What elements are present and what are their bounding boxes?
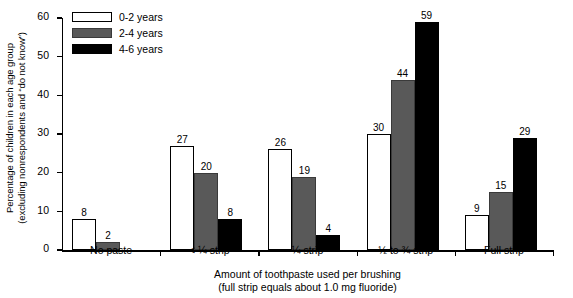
x-axis-category-label: ½ to ¾ strip xyxy=(357,244,455,257)
y-axis-tick: 60 xyxy=(57,17,62,18)
bar-value-label: 20 xyxy=(201,161,212,173)
bar: 29 xyxy=(513,138,537,250)
bar-value-label: 59 xyxy=(421,10,432,22)
bar-value-label: 15 xyxy=(495,180,506,192)
y-axis-tick-label: 40 xyxy=(27,88,49,101)
legend-label: 0-2 years xyxy=(119,11,163,23)
bar-group: 304459 xyxy=(367,18,439,250)
x-axis-category-label: < ¼ strip xyxy=(160,244,258,257)
bar: 59 xyxy=(415,22,439,250)
legend: 0-2 years 2-4 years 4-6 years xyxy=(72,10,192,58)
bar: 15 xyxy=(489,192,513,250)
bar: 26 xyxy=(268,149,292,250)
y-axis-tick-label: 20 xyxy=(27,165,49,178)
legend-item-4-6-years: 4-6 years xyxy=(72,42,192,56)
legend-item-2-4-years: 2-4 years xyxy=(72,26,192,40)
bar-group: 91529 xyxy=(465,18,537,250)
x-axis-title-line-1: Amount of toothpaste used per brushing xyxy=(62,268,553,281)
x-axis-category-label: No paste xyxy=(62,244,160,257)
bar-value-label: 19 xyxy=(299,165,310,177)
legend-label: 4-6 years xyxy=(119,43,163,55)
bar: 19 xyxy=(292,177,316,250)
bar: 44 xyxy=(391,80,415,250)
bar-value-label: 8 xyxy=(227,207,233,219)
bar-value-label: 4 xyxy=(326,223,332,235)
y-axis-title-line-1: Percentage of children in each age group xyxy=(4,32,16,224)
bar-value-label: 29 xyxy=(519,126,530,138)
y-axis-tick-label: 60 xyxy=(27,10,49,23)
y-axis-tick: 10 xyxy=(57,211,62,212)
y-axis-tick: 40 xyxy=(57,95,62,96)
bar-value-label: 2 xyxy=(105,230,111,242)
y-axis-tick-label: 50 xyxy=(27,49,49,62)
x-axis-category-label: Full strip xyxy=(455,244,553,257)
bar-value-label: 44 xyxy=(397,68,408,80)
y-axis-tick: 30 xyxy=(57,133,62,134)
white-swatch-icon xyxy=(72,12,112,22)
bar-value-label: 26 xyxy=(275,137,286,149)
y-axis-tick-label: 0 xyxy=(27,242,49,255)
y-axis-tick: 20 xyxy=(57,172,62,173)
bar: 30 xyxy=(367,134,391,250)
bar-value-label: 9 xyxy=(474,203,480,215)
y-axis-tick-label: 30 xyxy=(27,126,49,139)
bar: 27 xyxy=(170,146,194,250)
legend-item-0-2-years: 0-2 years xyxy=(72,10,192,24)
y-axis-tick: 50 xyxy=(57,56,62,57)
bar-value-label: 30 xyxy=(373,122,384,134)
x-axis-title-line-2: (full strip equals about 1.0 mg fluoride… xyxy=(62,281,553,294)
bar-value-label: 8 xyxy=(81,207,87,219)
black-swatch-icon xyxy=(72,44,112,54)
y-axis-line xyxy=(62,18,63,250)
gray-swatch-icon xyxy=(72,28,112,38)
x-axis-title: Amount of toothpaste used per brushing (… xyxy=(62,268,553,294)
legend-label: 2-4 years xyxy=(119,27,163,39)
y-axis-tick-label: 10 xyxy=(27,204,49,217)
bar-value-label: 27 xyxy=(177,134,188,146)
bar-group: 26194 xyxy=(268,18,340,250)
x-axis-group-separator-tick xyxy=(553,250,554,256)
x-axis-category-label: ¼ strip xyxy=(258,244,356,257)
bar-chart-figure: Percentage of children in each age group… xyxy=(0,0,573,298)
bar: 20 xyxy=(194,173,218,250)
